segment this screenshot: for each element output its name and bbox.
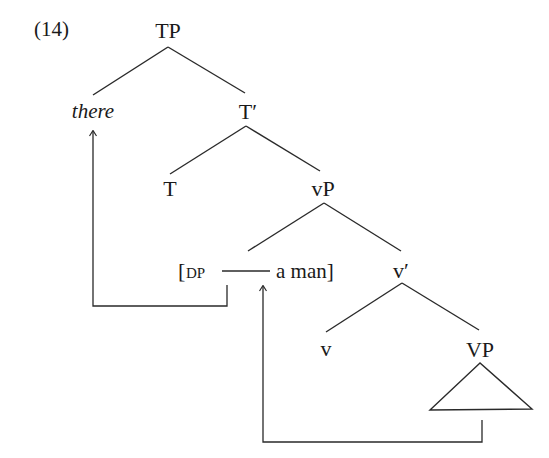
node-v: v — [321, 336, 332, 361]
node-vp-big: VP — [466, 337, 494, 362]
edge-vp-vbar — [324, 203, 401, 251]
edge-vp-dp — [248, 203, 324, 251]
node-there: there — [72, 99, 114, 123]
dp-label: DP — [186, 265, 205, 281]
edge-tp-there — [93, 47, 168, 95]
edge-vbar-vp — [402, 283, 479, 330]
vp-triangle — [430, 363, 532, 410]
node-t: T — [163, 176, 177, 201]
node-tp: TP — [155, 18, 181, 43]
dp-open-bracket: [ — [178, 258, 185, 283]
edge-tp-tbar — [168, 47, 245, 93]
node-vp-little: vP — [311, 176, 334, 201]
edge-tbar-vp — [246, 126, 320, 171]
example-number: (14) — [34, 17, 69, 41]
edge-tbar-t — [170, 126, 246, 174]
dp-content: a man] — [276, 259, 334, 283]
movement-arrow-dp-to-there — [93, 131, 227, 306]
node-t-bar: T′ — [239, 99, 257, 124]
movement-arrow-vp-to-dp — [263, 286, 482, 442]
node-v-bar: v′ — [393, 258, 409, 283]
edge-vbar-v — [326, 283, 402, 332]
syntax-tree-diagram: (14) TP there T′ T vP [ DP a man] v′ v V… — [0, 0, 549, 458]
